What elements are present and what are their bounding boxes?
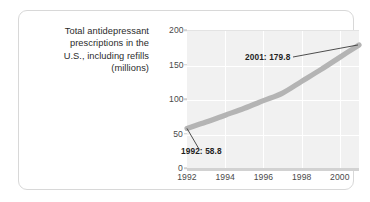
x-tick-label-1998: 1998 (292, 172, 312, 182)
chart-card: Total antidepressant prescriptions in th… (18, 10, 354, 190)
y-tick-mark-100 (184, 98, 187, 100)
y-tick-label-50: 50 (169, 129, 183, 139)
caption-line-4: (millions) (21, 62, 149, 74)
y-tick-mark-150 (184, 64, 187, 66)
caption-line-2: prescriptions in the (21, 37, 149, 49)
y-tick-mark-200 (184, 29, 187, 31)
chart-plot: 050100150200 19921994199619982000 2001: … (169, 30, 354, 180)
annotation-1992: 1992: 58.8 (181, 146, 222, 156)
x-tick-label-2000: 2000 (330, 172, 350, 182)
x-axis-line (187, 168, 359, 171)
y-tick-label-150: 150 (169, 60, 183, 70)
chart-caption: Total antidepressant prescriptions in th… (21, 25, 149, 75)
annotation-2001: 2001: 179.8 (245, 52, 290, 62)
y-tick-mark-50 (184, 133, 187, 135)
y-tick-label-200: 200 (169, 25, 183, 35)
x-tick-label-1992: 1992 (177, 172, 197, 182)
y-tick-label-100: 100 (169, 94, 183, 104)
caption-line-3: U.S., including refills (21, 50, 149, 62)
x-tick-label-1996: 1996 (254, 172, 274, 182)
x-tick-label-1994: 1994 (215, 172, 235, 182)
caption-line-1: Total antidepressant (21, 25, 149, 37)
